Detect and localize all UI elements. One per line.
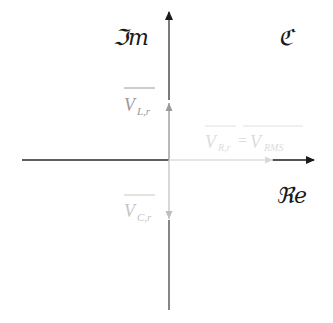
svg-text:R,r: R,r [217,142,231,153]
real-axis-label: ℜe [276,183,307,208]
svg-text:=: = [237,132,248,149]
svg-text:V: V [250,132,263,152]
label-v-r-r-equals-v-rms: V R,r = V RMS [205,126,303,153]
complex-plane-label: ℭ [278,25,296,50]
label-v-l-r: V L,r [124,88,155,117]
imaginary-axis-label: ℑm [113,25,149,50]
svg-text:RMS: RMS [263,142,283,153]
label-v-c-r: V C,r [124,195,155,223]
phasor-diagram: ℑm ℜe ℭ V L,r V R,r = V RMS V C,r [0,0,333,323]
svg-text:L,r: L,r [136,105,151,117]
svg-text:C,r: C,r [137,211,152,223]
svg-text:V: V [124,201,137,221]
svg-text:V: V [205,132,218,152]
svg-text:V: V [124,95,137,115]
